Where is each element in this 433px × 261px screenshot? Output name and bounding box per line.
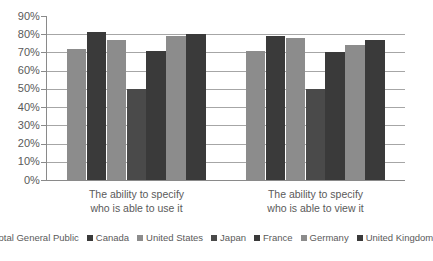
legend-item[interactable]: United Kingdom (357, 233, 433, 243)
bar (365, 40, 384, 180)
category-label-line: The ability to specify (226, 188, 405, 202)
bar (306, 89, 325, 180)
legend-label: Germany (310, 233, 349, 243)
y-axis-tick (41, 89, 46, 90)
y-axis-tick (41, 144, 46, 145)
y-axis-tick (41, 52, 46, 53)
bar (286, 38, 305, 180)
legend-label: Canada (96, 233, 129, 243)
y-axis-tick-label: 50% (0, 83, 40, 94)
y-axis-tick-label: 60% (0, 65, 40, 76)
y-axis-line (46, 16, 47, 181)
legend-swatch-icon (254, 235, 260, 241)
y-axis-tick (41, 107, 46, 108)
bar (107, 40, 126, 180)
legend-item[interactable]: Germany (301, 233, 349, 243)
category-label-line: who is able to view it (226, 202, 405, 216)
x-axis-category-labels: The ability to specifywho is able to use… (47, 188, 405, 222)
category-label-line: The ability to specify (47, 188, 226, 202)
legend-item[interactable]: Japan (211, 233, 246, 243)
legend-label: Japan (220, 233, 246, 243)
legend-swatch-icon (357, 235, 363, 241)
y-axis-tick (41, 162, 46, 163)
y-axis-tick (41, 71, 46, 72)
gridline (47, 180, 405, 181)
y-axis-tick-label: 80% (0, 29, 40, 40)
category-label-line: who is able to use it (47, 202, 226, 216)
legend-label: Total General Public (0, 233, 79, 243)
bar (345, 45, 364, 180)
legend-label: United Kingdom (366, 233, 433, 243)
bar (67, 49, 86, 180)
legend-item[interactable]: United States (137, 233, 203, 243)
y-axis-tick-label: 90% (0, 11, 40, 22)
y-axis-tick-label: 70% (0, 47, 40, 58)
bar-group (47, 16, 226, 180)
legend-swatch-icon (87, 235, 93, 241)
chart-legend: Total General PublicCanadaUnited StatesJ… (0, 233, 418, 243)
bar (325, 52, 344, 180)
bar (87, 32, 106, 180)
y-axis-tick (41, 125, 46, 126)
legend-label: United States (146, 233, 203, 243)
x-axis-category-label: The ability to specifywho is able to vie… (226, 188, 405, 215)
legend-swatch-icon (211, 235, 217, 241)
y-axis-tick-label: 20% (0, 138, 40, 149)
y-axis-tick (41, 16, 46, 17)
bar (266, 36, 285, 180)
bar-group (226, 16, 405, 180)
y-axis-tick-label: 40% (0, 102, 40, 113)
legend-swatch-icon (137, 235, 143, 241)
legend-swatch-icon (301, 235, 307, 241)
bar (146, 51, 165, 180)
y-axis-tick (41, 34, 46, 35)
legend-item[interactable]: Total General Public (0, 233, 79, 243)
y-axis-tick (41, 180, 46, 181)
legend-label: France (263, 233, 293, 243)
y-axis-tick-label: 10% (0, 156, 40, 167)
bar (127, 89, 146, 180)
plot-area (47, 16, 405, 180)
legend-item[interactable]: Canada (87, 233, 129, 243)
bar (246, 51, 265, 180)
y-axis-tick-label: 0% (0, 175, 40, 186)
legend-item[interactable]: France (254, 233, 293, 243)
bars-layer (47, 16, 405, 180)
bar (186, 34, 205, 180)
bar (166, 36, 185, 180)
y-axis-labels: 90%80%70%60%50%40%30%20%10%0% (0, 0, 40, 261)
y-axis-tick-label: 30% (0, 120, 40, 131)
x-axis-category-label: The ability to specifywho is able to use… (47, 188, 226, 215)
